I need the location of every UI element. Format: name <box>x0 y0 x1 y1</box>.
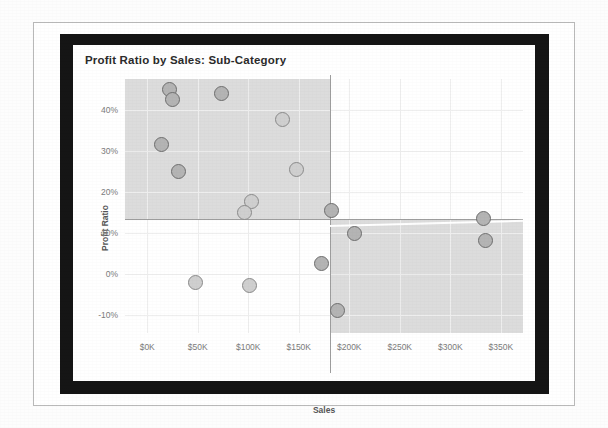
scatter-chart: Profit Ratio by Sales: Sub-Category Prof… <box>73 45 535 381</box>
gridline-v-$0K <box>147 79 148 333</box>
plot-wrapper: Profit Ratio Sales 40%30%20%10%0%-10% $0… <box>73 75 535 381</box>
gridline-v-$50K <box>198 79 199 333</box>
x-tick-label: $200K <box>337 342 362 352</box>
y-tick-label: 0% <box>106 269 118 279</box>
y-tick-label: 30% <box>101 146 118 156</box>
y-tick-label: -10% <box>98 310 118 320</box>
gridline-v-$350K <box>501 79 502 333</box>
gridline-h-40% <box>125 110 523 111</box>
data-point[interactable] <box>171 164 186 179</box>
data-point[interactable] <box>476 211 491 226</box>
data-point[interactable] <box>478 233 493 248</box>
data-point[interactable] <box>188 275 203 290</box>
x-tick-label: $100K <box>236 342 261 352</box>
scanned-page: Profit Ratio by Sales: Sub-Category Prof… <box>0 0 608 428</box>
x-tick-label: $150K <box>286 342 311 352</box>
data-point[interactable] <box>242 278 257 293</box>
gridline-v-$200K <box>349 79 350 333</box>
data-point[interactable] <box>324 203 339 218</box>
x-tick-label: $300K <box>438 342 463 352</box>
x-axis-label: Sales <box>125 405 523 415</box>
y-tick-label: 10% <box>101 228 118 238</box>
x-tick-label: $0K <box>140 342 155 352</box>
y-tick-label: 40% <box>101 105 118 115</box>
gridline-v-$150K <box>299 79 300 333</box>
gridline-v-$250K <box>400 79 401 333</box>
data-point[interactable] <box>330 303 345 318</box>
reference-line-horizontal <box>125 219 523 220</box>
plot-area: 40%30%20%10%0%-10% $0K$50K$100K$150K$200… <box>125 79 523 333</box>
gridline-h-10% <box>125 233 523 234</box>
gridline-h-0% <box>125 274 523 275</box>
gridline-h-20% <box>125 192 523 193</box>
data-point[interactable] <box>154 137 169 152</box>
gridline-v-$300K <box>450 79 451 333</box>
x-tick-label: $250K <box>387 342 412 352</box>
data-point[interactable] <box>289 162 304 177</box>
chart-frame-inner: Profit Ratio by Sales: Sub-Category Prof… <box>73 45 535 381</box>
gridline-h-30% <box>125 151 523 152</box>
data-point[interactable] <box>165 92 180 107</box>
x-tick-label: $50K <box>188 342 208 352</box>
data-point[interactable] <box>314 256 329 271</box>
chart-black-frame: Profit Ratio by Sales: Sub-Category Prof… <box>60 34 549 394</box>
chart-title: Profit Ratio by Sales: Sub-Category <box>85 54 286 66</box>
gridline-h--10% <box>125 315 523 316</box>
x-tick-label: $350K <box>488 342 513 352</box>
y-tick-label: 20% <box>101 187 118 197</box>
